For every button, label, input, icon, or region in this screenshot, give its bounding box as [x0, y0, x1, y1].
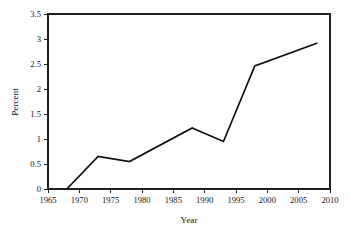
- x-tick-label: 1980: [133, 195, 150, 205]
- x-tick-label: 1985: [165, 195, 182, 205]
- x-tick-label: 1965: [39, 195, 56, 205]
- line-chart: 00.511.522.533.5 19651970197519801985199…: [0, 0, 350, 231]
- x-tick-label: 2000: [259, 195, 276, 205]
- chart-container: 00.511.522.533.5 19651970197519801985199…: [0, 0, 350, 231]
- x-tick-label: 2005: [290, 195, 307, 205]
- y-tick-label: 1.5: [30, 109, 41, 119]
- y-tick-label: 2.5: [30, 59, 41, 69]
- y-tick-label: 0.5: [30, 159, 41, 169]
- y-axis-title: Percent: [10, 88, 20, 116]
- y-tick-label: 3.5: [30, 9, 41, 19]
- x-tick-label: 2010: [321, 195, 338, 205]
- y-tick-label: 3: [37, 34, 41, 44]
- y-tick-label: 0: [37, 184, 41, 194]
- y-tick-label: 2: [37, 84, 41, 94]
- x-tick-label: 1990: [196, 195, 213, 205]
- x-tick-label: 1970: [71, 195, 88, 205]
- x-tick-label: 1995: [227, 195, 244, 205]
- x-tick-label: 1975: [102, 195, 119, 205]
- x-axis-title: Year: [181, 215, 198, 225]
- y-tick-label: 1: [37, 134, 41, 144]
